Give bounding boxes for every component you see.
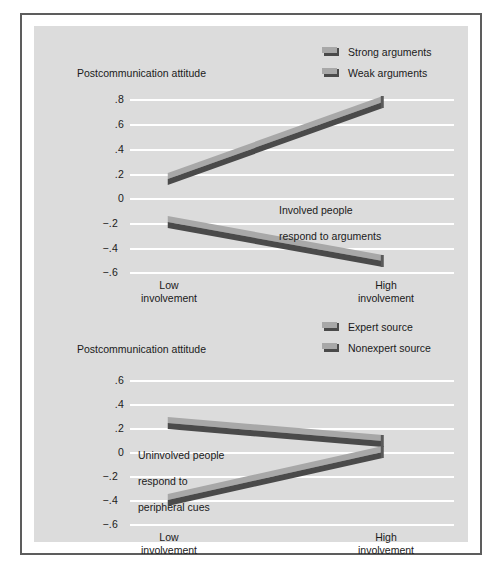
x-tick-line: High [341, 531, 431, 544]
figure-frame: Strong arguments Weak arguments Postcomm… [20, 13, 482, 555]
annotation-line: Involved people [279, 204, 381, 217]
series-lines-top [34, 26, 468, 298]
x-tick-line: involvement [124, 544, 214, 557]
annotation-line: peripheral cues [138, 501, 224, 514]
chart-panel-bottom: Expert source Nonexpert source Postcommu… [34, 298, 468, 560]
x-tick-low-involvement: Low involvement [124, 531, 214, 556]
x-tick-line: Low [124, 531, 214, 544]
x-tick-high-involvement: High involvement [341, 531, 431, 556]
annotation-bottom: Uninvolved people respond to peripheral … [138, 436, 224, 527]
x-tick-line: Low [124, 279, 214, 292]
series-lines-bottom [34, 298, 468, 560]
x-tick-line: involvement [341, 544, 431, 557]
annotation-line: respond to arguments [279, 230, 381, 243]
chart-panel-top: Strong arguments Weak arguments Postcomm… [34, 26, 468, 298]
series-band-strong-arguments [168, 96, 384, 185]
figure-panel-background: Strong arguments Weak arguments Postcomm… [34, 26, 468, 542]
annotation-line: Uninvolved people [138, 449, 224, 462]
x-tick-line: High [341, 279, 431, 292]
annotation-line: respond to [138, 475, 224, 488]
annotation-top: Involved people respond to arguments [279, 191, 381, 256]
